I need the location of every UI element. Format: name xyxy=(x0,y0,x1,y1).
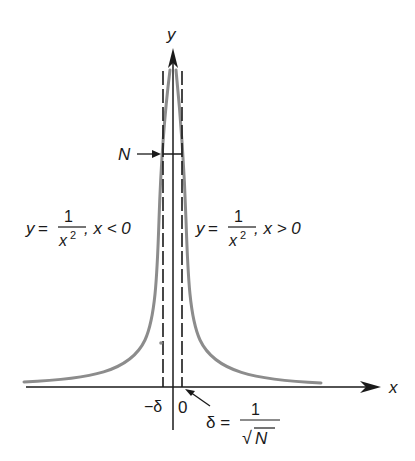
artifact-dot xyxy=(159,341,163,345)
right-curve-label: y = 1 x 2 , x > 0 xyxy=(195,208,301,249)
plot-figure: N y x −δ 0 δ = 1 √ N y = 1 x 2 , x < 0 y… xyxy=(0,0,415,461)
y-axis-label: y xyxy=(166,25,177,44)
left-label-numerator: 1 xyxy=(64,208,73,225)
x-axis xyxy=(26,381,381,393)
right-label-denominator: x xyxy=(228,232,238,249)
y-axis xyxy=(168,48,178,430)
left-label-condition: , x < 0 xyxy=(84,219,131,238)
n-arrowhead xyxy=(152,150,161,158)
delta-definition: δ = 1 √ N xyxy=(206,401,280,448)
delta-def-radical: √ xyxy=(242,428,252,448)
left-label-exponent: 2 xyxy=(70,229,76,241)
delta-def-numerator: 1 xyxy=(251,401,260,418)
right-label-condition: , x > 0 xyxy=(254,219,301,238)
right-label-lhs-y: y xyxy=(195,219,206,238)
left-label-denominator: x xyxy=(58,232,68,249)
n-label: N xyxy=(118,145,131,164)
left-label-eq: = xyxy=(38,219,48,238)
delta-def-denominator: N xyxy=(255,429,268,448)
left-curve-label: y = 1 x 2 , x < 0 xyxy=(25,208,131,249)
right-label-eq: = xyxy=(208,219,218,238)
right-label-numerator: 1 xyxy=(234,208,243,225)
zero-tick-label: 0 xyxy=(178,398,187,417)
delta-pointer xyxy=(185,389,210,406)
right-label-exponent: 2 xyxy=(240,229,246,241)
x-axis-label: x xyxy=(388,378,398,397)
left-label-lhs-y: y xyxy=(25,219,36,238)
delta-def-lhs: δ = xyxy=(206,413,230,432)
neg-delta-tick-label: −δ xyxy=(144,398,162,415)
